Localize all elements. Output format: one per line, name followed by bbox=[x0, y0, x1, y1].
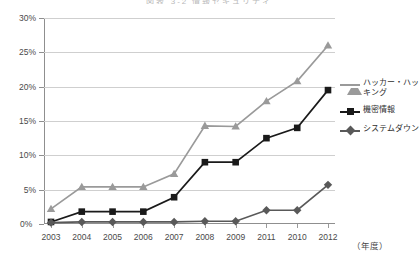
series-line bbox=[51, 45, 328, 208]
y-axis-tick bbox=[39, 224, 44, 225]
diamond-marker-icon bbox=[139, 218, 147, 226]
legend-item[interactable]: ハッカー・ハッキング bbox=[340, 78, 419, 98]
x-axis-tick-label: 2011 bbox=[257, 232, 275, 242]
diamond-marker-icon bbox=[170, 218, 178, 226]
legend-item-label: 機密情報 bbox=[363, 105, 419, 115]
x-axis-tick-label: 2006 bbox=[134, 232, 153, 242]
y-axis-tick-label: 20% bbox=[19, 82, 36, 92]
x-axis-tick bbox=[328, 224, 329, 228]
x-axis-tick bbox=[297, 224, 298, 228]
square-marker-icon bbox=[294, 125, 301, 132]
square-marker-icon bbox=[171, 194, 178, 201]
diamond-marker-icon bbox=[340, 125, 360, 136]
x-axis-unit-label: （年度） bbox=[352, 239, 388, 251]
series-triangle bbox=[47, 41, 332, 212]
square-marker-icon bbox=[232, 159, 239, 166]
line-chart: 図表 3-2 情報セキュリティ 5%10%15%20%25%30% 200320… bbox=[0, 0, 419, 264]
square-marker-icon bbox=[263, 135, 270, 142]
plot-area: 5%10%15%20%25%30% 2003200420052006200720… bbox=[44, 18, 335, 224]
legend-item-label: システムダウン bbox=[363, 124, 419, 134]
y-axis-tick-label: 10% bbox=[19, 150, 36, 160]
triangle-marker-icon bbox=[262, 97, 270, 104]
y-axis-tick-label: 15% bbox=[19, 116, 36, 126]
x-axis-tick-label: 2005 bbox=[103, 232, 122, 242]
series-line bbox=[51, 185, 328, 223]
diamond-marker-icon bbox=[262, 206, 270, 214]
legend-item-label: ハッカー・ハッキング bbox=[363, 78, 419, 98]
square-marker-icon bbox=[340, 106, 360, 117]
x-axis-tick-label: 2007 bbox=[165, 232, 184, 242]
square-marker-icon bbox=[109, 208, 116, 215]
square-marker-icon bbox=[202, 159, 209, 166]
chart-title: 図表 3-2 情報セキュリティ bbox=[0, 0, 419, 4]
series-line bbox=[51, 90, 328, 222]
diamond-marker-icon bbox=[231, 217, 239, 225]
diamond-marker-icon bbox=[108, 218, 116, 226]
x-axis-tick-label: 2009 bbox=[226, 232, 245, 242]
x-axis-tick-label: 2003 bbox=[42, 232, 61, 242]
series-square bbox=[48, 87, 332, 225]
x-axis-tick-label: 2004 bbox=[72, 232, 91, 242]
triangle-marker-icon bbox=[324, 41, 332, 48]
x-axis-tick-label: 2008 bbox=[195, 232, 214, 242]
y-axis-zero-label: 0% bbox=[20, 219, 32, 229]
data-series-layer bbox=[44, 18, 335, 224]
square-marker-icon bbox=[78, 208, 85, 215]
diamond-marker-icon bbox=[201, 217, 209, 225]
legend-item[interactable]: 機密情報 bbox=[340, 105, 419, 117]
x-axis-tick-label: 2010 bbox=[288, 232, 307, 242]
x-axis-tick-label: 2012 bbox=[319, 232, 338, 242]
y-axis-tick-label: 5% bbox=[24, 185, 36, 195]
square-marker-icon bbox=[140, 208, 147, 215]
legend-item[interactable]: システムダウン bbox=[340, 124, 419, 136]
chart-legend: ハッカー・ハッキング機密情報システムダウン bbox=[340, 78, 419, 143]
x-axis-tick bbox=[266, 224, 267, 228]
y-axis-tick-label: 25% bbox=[19, 47, 36, 57]
diamond-marker-icon bbox=[78, 218, 86, 226]
square-marker-icon bbox=[325, 87, 332, 94]
y-axis-tick-label: 30% bbox=[19, 13, 36, 23]
triangle-marker-icon bbox=[340, 79, 360, 90]
